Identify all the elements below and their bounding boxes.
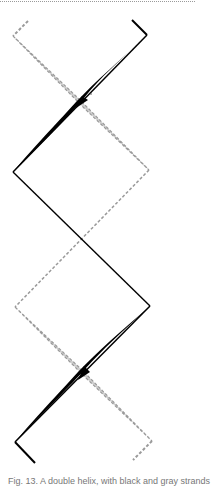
figure-caption: Fig. 13. A double helix, with black and … <box>8 476 210 486</box>
solid-strand <box>13 20 150 463</box>
